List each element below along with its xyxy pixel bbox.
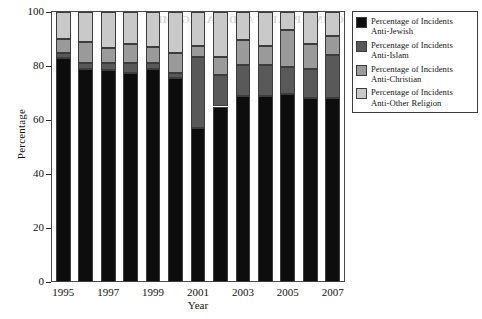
bar-segment xyxy=(213,75,228,106)
bar-segment xyxy=(168,53,183,73)
bar-segment xyxy=(56,53,71,58)
stacked-bar-chart-figure: Percentage 020406080100 CRIME POLICY AND… xyxy=(0,0,482,319)
bar-segment xyxy=(56,58,71,282)
chart-legend: Percentage of Incidents Anti-JewishPerce… xyxy=(352,11,478,113)
bar-segment xyxy=(258,65,273,96)
bar-segment xyxy=(78,42,93,64)
bar-segment xyxy=(78,12,93,42)
bars-layer xyxy=(52,12,344,282)
bar-segment xyxy=(236,12,251,40)
x-tick-label: 2007 xyxy=(313,286,353,298)
bar-segment xyxy=(191,46,206,57)
bar-segment xyxy=(280,67,295,94)
bar-segment xyxy=(258,12,273,46)
bar-segment xyxy=(123,63,138,72)
x-axis-title: Year xyxy=(0,299,396,311)
bar-segment xyxy=(101,48,116,63)
bar-segment xyxy=(213,12,228,57)
bar-segment xyxy=(146,47,161,63)
bar-segment xyxy=(303,69,318,99)
y-tick-mark xyxy=(46,282,51,283)
bar-segment xyxy=(101,63,116,70)
bar-segment xyxy=(258,46,273,65)
bar-1998 xyxy=(123,12,138,282)
bar-segment xyxy=(303,98,318,282)
bar-1996 xyxy=(78,12,93,282)
legend-swatch-anti-jewish xyxy=(356,17,367,28)
bar-2002 xyxy=(213,12,228,282)
legend-label: Percentage of Incidents Anti-Jewish xyxy=(371,16,453,37)
x-tick-label: 1999 xyxy=(133,286,173,298)
bar-2004 xyxy=(258,12,273,282)
bar-segment xyxy=(168,12,183,53)
legend-row: Percentage of Incidents Anti-Christian xyxy=(356,64,474,85)
bar-segment xyxy=(123,44,138,63)
y-tick-label: 0 xyxy=(14,276,44,287)
bar-segment xyxy=(123,73,138,282)
x-tick-label: 2005 xyxy=(268,286,308,298)
x-tick-label: 1997 xyxy=(88,286,128,298)
bar-segment xyxy=(146,69,161,282)
bar-segment xyxy=(325,98,340,282)
bar-2007 xyxy=(325,12,340,282)
y-tick-label: 20 xyxy=(14,222,44,233)
legend-swatch-anti-islam xyxy=(356,41,367,52)
bar-segment xyxy=(168,78,183,282)
bar-2001 xyxy=(191,12,206,282)
bar-segment xyxy=(213,107,228,283)
bar-segment xyxy=(56,39,71,53)
bar-segment xyxy=(325,36,340,55)
bar-segment xyxy=(191,57,206,129)
bar-segment xyxy=(101,70,116,282)
bar-segment xyxy=(236,65,251,96)
bar-segment xyxy=(236,96,251,282)
y-tick-label: 100 xyxy=(14,6,44,17)
bar-segment xyxy=(303,12,318,44)
bar-segment xyxy=(78,63,93,68)
y-tick-label: 80 xyxy=(14,60,44,71)
x-tick-label: 1995 xyxy=(43,286,83,298)
bar-segment xyxy=(146,63,161,68)
bar-1999 xyxy=(146,12,161,282)
legend-row: Percentage of Incidents Anti-Jewish xyxy=(356,16,474,37)
bar-segment xyxy=(168,73,183,78)
bar-segment xyxy=(213,57,228,76)
x-tick-label: 2001 xyxy=(178,286,218,298)
bar-2000 xyxy=(168,12,183,282)
bar-segment xyxy=(280,94,295,282)
legend-label: Percentage of Incidents Anti-Christian xyxy=(371,64,453,85)
bar-segment xyxy=(325,55,340,98)
legend-swatch-anti-other-religion xyxy=(356,88,367,99)
x-tick-label: 2003 xyxy=(223,286,263,298)
y-tick-label: 40 xyxy=(14,168,44,179)
bar-2003 xyxy=(236,12,251,282)
bar-segment xyxy=(303,44,318,68)
legend-label: Percentage of Incidents Anti-Islam xyxy=(371,40,453,61)
bar-1997 xyxy=(101,12,116,282)
bar-2005 xyxy=(280,12,295,282)
legend-label: Percentage of Incidents Anti-Other Relig… xyxy=(371,87,453,108)
bar-segment xyxy=(56,12,71,39)
bar-2006 xyxy=(303,12,318,282)
legend-row: Percentage of Incidents Anti-Islam xyxy=(356,40,474,61)
bar-segment xyxy=(101,12,116,48)
bar-segment xyxy=(191,12,206,46)
bar-segment xyxy=(236,40,251,64)
bar-1995 xyxy=(56,12,71,282)
bar-segment xyxy=(146,12,161,47)
bar-segment xyxy=(280,12,295,30)
legend-row: Percentage of Incidents Anti-Other Relig… xyxy=(356,87,474,108)
bar-segment xyxy=(280,30,295,68)
legend-swatch-anti-christian xyxy=(356,65,367,76)
bar-segment xyxy=(123,12,138,44)
bar-segment xyxy=(258,96,273,282)
bar-segment xyxy=(191,128,206,282)
bar-segment xyxy=(78,69,93,282)
bar-segment xyxy=(325,12,340,36)
y-tick-label: 60 xyxy=(14,114,44,125)
